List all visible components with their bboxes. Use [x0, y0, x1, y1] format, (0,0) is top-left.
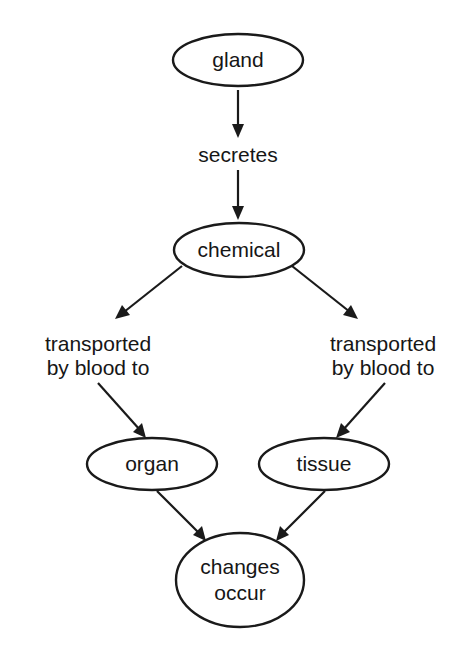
- node-tissue: tissue: [259, 438, 389, 490]
- edge-right-label-to-tissue: [336, 383, 385, 438]
- node-organ: organ: [87, 438, 217, 490]
- edge-label-left-line2: by blood to: [47, 356, 150, 379]
- node-changes-occur: changes occur: [176, 533, 304, 627]
- node-changes-label-line1: changes: [200, 555, 279, 578]
- node-changes-label-line2: occur: [214, 581, 265, 604]
- node-chemical-label: chemical: [198, 238, 281, 261]
- edge-chemical-to-left-label: [115, 266, 182, 319]
- node-gland-label: gland: [212, 48, 263, 71]
- edge-label-left-line1: transported: [45, 332, 151, 355]
- node-tissue-label: tissue: [297, 452, 352, 475]
- hormone-flow-diagram: gland secretes chemical transported by b…: [0, 0, 475, 646]
- edge-label-right-line1: transported: [330, 332, 436, 355]
- edge-label-secretes: secretes: [198, 143, 277, 166]
- edge-chemical-to-right-label: [292, 266, 358, 319]
- edge-gland-to-secretes: [232, 90, 244, 138]
- arrowhead-icon: [232, 124, 244, 138]
- node-chemical: chemical: [174, 223, 304, 277]
- node-organ-label: organ: [125, 452, 179, 475]
- edge-left-label-to-organ: [98, 383, 146, 438]
- edge-secretes-to-chemical: [232, 170, 244, 220]
- arrowhead-icon: [115, 305, 130, 319]
- edge-organ-to-changes: [157, 491, 206, 541]
- arrowhead-icon: [232, 206, 244, 220]
- node-gland: gland: [173, 34, 303, 86]
- edge-tissue-to-changes: [276, 491, 325, 541]
- edge-label-right-line2: by blood to: [332, 356, 435, 379]
